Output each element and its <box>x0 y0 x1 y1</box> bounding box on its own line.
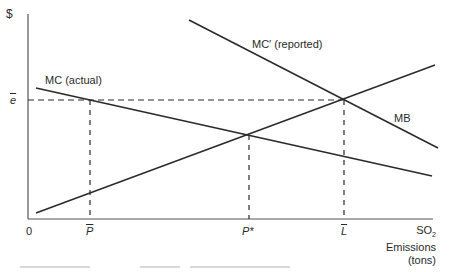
x-axis-title-subscript: 2 <box>432 231 436 238</box>
mc-reported-label: MC′ (reported) <box>252 38 323 50</box>
y-axis-label: $ <box>6 8 13 20</box>
mc-actual-label: MC (actual) <box>45 74 102 86</box>
mb-label: MB <box>394 112 411 124</box>
origin-label: 0 <box>26 225 32 237</box>
cropped-caption-remnant <box>0 266 450 272</box>
p-bar-label: P <box>86 225 93 237</box>
x-axis-title: SO2 Emissions (tons) <box>380 224 436 267</box>
l-bar-label: L <box>341 225 347 237</box>
x-axis-title-emissions: Emissions <box>380 241 436 254</box>
e-bar-label: e <box>10 94 16 106</box>
rising-line <box>36 65 435 213</box>
x-axis-title-so: SO <box>416 224 432 236</box>
mc-actual-line <box>36 88 432 176</box>
p-star-label: P* <box>242 225 254 237</box>
